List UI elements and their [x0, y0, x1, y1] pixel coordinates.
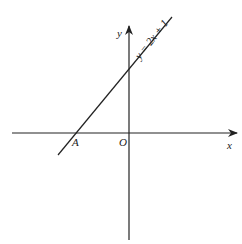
x-axis-label: x	[226, 139, 232, 151]
coordinate-diagram: y x O A y = 2x + 1	[0, 0, 242, 244]
point-a-label: A	[71, 136, 79, 148]
y-axis-label: y	[116, 27, 122, 39]
origin-label: O	[119, 136, 127, 148]
line-equation-label: y = 2x + 1	[132, 17, 171, 62]
